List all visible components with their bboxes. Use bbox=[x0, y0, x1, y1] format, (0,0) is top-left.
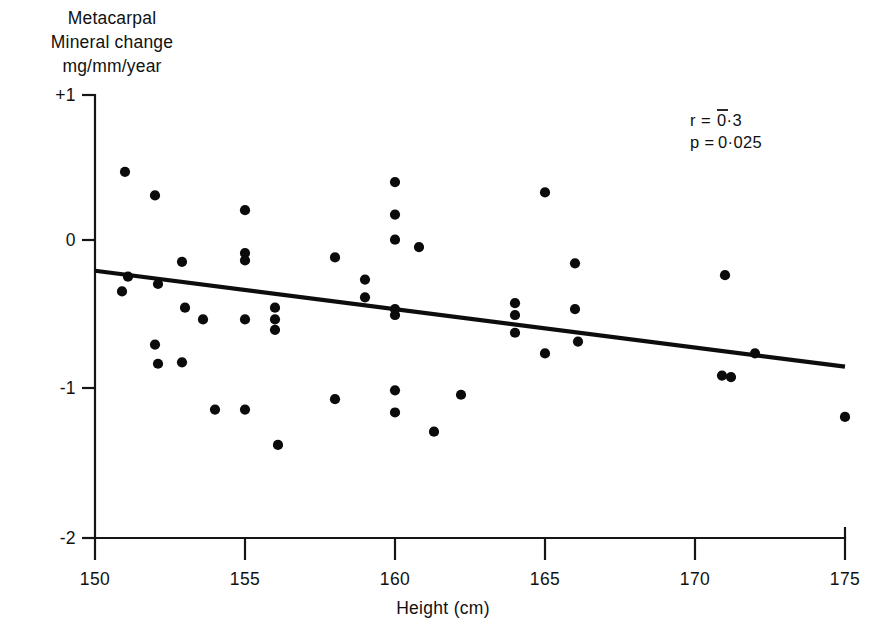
data-point bbox=[510, 298, 520, 308]
data-point bbox=[240, 314, 250, 324]
data-point bbox=[390, 385, 400, 395]
data-point bbox=[177, 257, 187, 267]
data-point bbox=[153, 359, 163, 369]
data-point bbox=[429, 427, 439, 437]
stat-annotation-p-text: p = bbox=[690, 133, 715, 151]
scatter-plot: Metacarpal Mineral change mg/mm/year +1 … bbox=[0, 0, 870, 632]
data-point bbox=[717, 370, 727, 380]
data-point bbox=[360, 274, 370, 284]
y-axis-label-line3: mg/mm/year bbox=[62, 56, 161, 76]
data-point bbox=[414, 242, 424, 252]
data-point bbox=[840, 412, 850, 422]
data-point bbox=[390, 235, 400, 245]
data-point bbox=[570, 258, 580, 268]
x-tick-label-155: 155 bbox=[230, 569, 260, 589]
x-tick-label-165: 165 bbox=[530, 569, 560, 589]
data-point bbox=[150, 190, 160, 200]
data-point bbox=[570, 304, 580, 314]
data-point bbox=[240, 205, 250, 215]
data-point bbox=[540, 187, 550, 197]
x-axis-title: Height (cm) bbox=[396, 598, 490, 618]
figure-container: Metacarpal Mineral change mg/mm/year +1 … bbox=[0, 0, 870, 632]
data-point bbox=[210, 404, 220, 414]
data-point bbox=[120, 167, 130, 177]
stat-annotation-r-text: r = bbox=[690, 111, 711, 129]
data-point bbox=[180, 303, 190, 313]
stat-annotation-p-value: 0·025 bbox=[718, 133, 762, 151]
data-point bbox=[270, 325, 280, 335]
data-point bbox=[573, 337, 583, 347]
data-point bbox=[720, 270, 730, 280]
y-axis-label-line2: Mineral change bbox=[51, 32, 173, 52]
data-point bbox=[456, 390, 466, 400]
data-point bbox=[390, 210, 400, 220]
data-point bbox=[240, 404, 250, 414]
data-point bbox=[240, 255, 250, 265]
data-point bbox=[726, 372, 736, 382]
x-tick-label-160: 160 bbox=[380, 569, 410, 589]
data-point bbox=[117, 286, 127, 296]
data-point bbox=[330, 394, 340, 404]
data-point bbox=[273, 440, 283, 450]
stat-annotation-p: p = 0·025 bbox=[690, 133, 762, 151]
data-point bbox=[390, 177, 400, 187]
data-point bbox=[150, 339, 160, 349]
x-tick-label-170: 170 bbox=[680, 569, 710, 589]
y-tick-label-1: +1 bbox=[55, 85, 76, 105]
data-point bbox=[390, 310, 400, 320]
data-point bbox=[510, 310, 520, 320]
data-points-group bbox=[117, 167, 850, 450]
y-tick-label-neg2: -2 bbox=[60, 528, 76, 548]
stat-annotation-r-value: 0·3 bbox=[717, 111, 742, 129]
data-point bbox=[270, 314, 280, 324]
data-point bbox=[360, 292, 370, 302]
data-point bbox=[540, 348, 550, 358]
x-tick-label-175: 175 bbox=[830, 569, 860, 589]
data-point bbox=[198, 314, 208, 324]
y-tick-label-neg1: -1 bbox=[60, 378, 76, 398]
data-point bbox=[123, 272, 133, 282]
data-point bbox=[750, 348, 760, 358]
data-point bbox=[270, 303, 280, 313]
data-point bbox=[510, 328, 520, 338]
data-point bbox=[330, 252, 340, 262]
y-axis-label-line1: Metacarpal bbox=[68, 8, 157, 28]
x-tick-label-150: 150 bbox=[80, 569, 110, 589]
data-point bbox=[177, 357, 187, 367]
y-tick-label-0: 0 bbox=[66, 230, 76, 250]
data-point bbox=[153, 279, 163, 289]
stat-annotation-r: r = 0·3 bbox=[690, 110, 742, 129]
data-point bbox=[390, 407, 400, 417]
